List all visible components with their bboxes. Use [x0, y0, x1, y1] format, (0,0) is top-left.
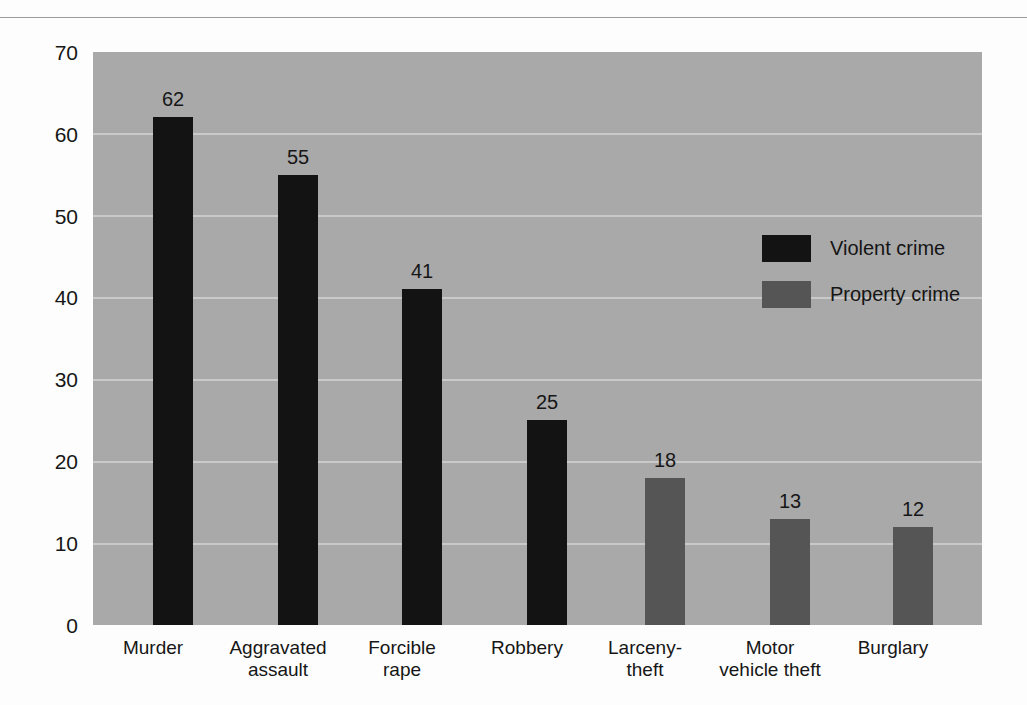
legend-item-property-crime[interactable]: Property crime — [762, 271, 960, 317]
y-axis-tick-10: 10 — [8, 533, 78, 554]
chart-legend: Violent crime Property crime — [762, 225, 960, 317]
gridline-60 — [93, 133, 982, 135]
x-axis-label-burglary-line-1: Burglary — [813, 637, 973, 659]
plot-area: 62 55 41 25 18 13 12 Violent crime Prope… — [93, 52, 982, 625]
chart-figure: 70 60 50 40 30 20 10 0 62 55 41 25 18 13… — [0, 0, 1027, 705]
bar-value-murder: 62 — [128, 89, 218, 109]
bar-burglary[interactable] — [893, 527, 933, 625]
bar-value-burglary: 12 — [868, 499, 958, 519]
y-axis-tick-40: 40 — [8, 287, 78, 308]
y-axis-tick-50: 50 — [8, 206, 78, 227]
gridline-50 — [93, 215, 982, 217]
y-axis-tick-30: 30 — [8, 369, 78, 390]
y-axis-tick-60: 60 — [8, 124, 78, 145]
y-axis-tick-20: 20 — [8, 451, 78, 472]
bar-aggravated-assault[interactable] — [278, 175, 318, 625]
legend-swatch-violent-crime-icon — [762, 235, 811, 262]
y-axis-tick-0: 0 — [8, 615, 78, 636]
gridline-30 — [93, 379, 982, 381]
legend-label-property-crime: Property crime — [830, 284, 960, 304]
bar-forcible-rape[interactable] — [402, 289, 442, 625]
legend-swatch-property-crime-icon — [762, 281, 811, 308]
bar-value-aggravated-assault: 55 — [253, 147, 343, 167]
bar-motor-vehicle-theft[interactable] — [770, 519, 810, 625]
legend-label-violent-crime: Violent crime — [830, 238, 945, 258]
bar-value-robbery: 25 — [502, 392, 592, 412]
bar-larceny-theft[interactable] — [645, 478, 685, 625]
bar-value-motor-vehicle-theft: 13 — [745, 491, 835, 511]
x-axis-label-forcible-rape-line-2: rape — [322, 659, 482, 681]
bar-robbery[interactable] — [527, 420, 567, 625]
bar-value-larceny-theft: 18 — [620, 450, 710, 470]
bar-value-forcible-rape: 41 — [377, 261, 467, 281]
legend-item-violent-crime[interactable]: Violent crime — [762, 225, 960, 271]
top-divider-rule — [0, 17, 1027, 18]
x-axis-label-burglary: Burglary — [813, 637, 973, 659]
bar-murder[interactable] — [153, 117, 193, 625]
y-axis-tick-70: 70 — [8, 42, 78, 63]
x-axis-label-motor-vehicle-theft-line-2: vehicle theft — [690, 659, 850, 681]
